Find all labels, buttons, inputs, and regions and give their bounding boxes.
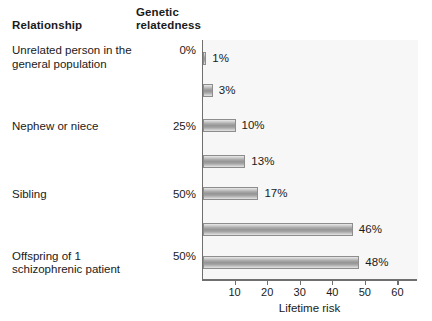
row-label-line-2: general population	[12, 58, 146, 72]
table-row: Identical twin100%	[0, 246, 201, 280]
bar	[203, 155, 245, 168]
x-axis-tick-mark	[267, 280, 268, 285]
bar-value-label: 13%	[251, 155, 274, 168]
x-axis-tick-mark	[365, 280, 366, 285]
bar-value-label: 46%	[359, 223, 382, 236]
x-axis-tick-mark	[235, 280, 236, 285]
x-axis-tick-label: 50	[359, 286, 371, 298]
column-header-relationship: Relationship	[12, 19, 82, 31]
row-label-column: Unrelated person in thegeneral populatio…	[0, 40, 201, 280]
bar-track: 1%	[203, 40, 418, 74]
x-axis-tick-label: 30	[294, 286, 306, 298]
x-axis-tick-mark	[332, 280, 333, 285]
bar	[203, 223, 353, 236]
bar-value-label: 10%	[242, 119, 265, 132]
bar	[203, 256, 359, 269]
bar	[203, 84, 213, 97]
bar-value-label: 1%	[212, 52, 229, 65]
table-row: Sibling50%	[0, 109, 201, 143]
table-row: Unrelated person in thegeneral populatio…	[0, 40, 201, 74]
bar-value-label: 17%	[264, 187, 287, 200]
x-axis-tick-mark	[300, 280, 301, 285]
x-axis-tick-label: 10	[228, 286, 240, 298]
bar	[203, 119, 236, 132]
bar	[203, 52, 206, 65]
x-axis-title: Lifetime risk	[202, 302, 417, 314]
row-genetic-relatedness: 0%	[120, 44, 196, 58]
bar-track: 3%	[203, 74, 418, 108]
row-relatedness-line-1: 0%	[120, 44, 196, 58]
bar-track: 17%	[203, 177, 418, 211]
x-axis-tick-label: 40	[326, 286, 338, 298]
bar	[203, 187, 258, 200]
bar-track: 46%	[203, 211, 418, 245]
column-header-genetic-line2: relatedness	[136, 19, 198, 32]
bar-value-label: 3%	[219, 84, 236, 97]
table-row: Fraternal twin50%	[0, 177, 201, 211]
table-row: Offspring of 2schizophrenic patients50% …	[0, 211, 201, 245]
bar-track: 13%	[203, 143, 418, 177]
table-header: Relationship Genetic relatedness	[0, 0, 432, 40]
bar-value-label: 48%	[365, 256, 388, 269]
x-axis-tick-mark	[397, 280, 398, 285]
column-header-genetic-relatedness: Genetic relatedness	[136, 6, 198, 32]
chart-plot-area: 1%3%10%13%17%46%48%	[202, 40, 418, 280]
bar-track: 48%	[203, 246, 418, 280]
table-row: Offspring of 1schizophrenic patient50%	[0, 143, 201, 177]
x-axis-tick-label: 20	[261, 286, 273, 298]
x-axis-tick-label: 60	[391, 286, 403, 298]
bar-track: 10%	[203, 109, 418, 143]
column-header-genetic-line1: Genetic	[136, 6, 198, 19]
table-row: Nephew or niece25%	[0, 74, 201, 108]
